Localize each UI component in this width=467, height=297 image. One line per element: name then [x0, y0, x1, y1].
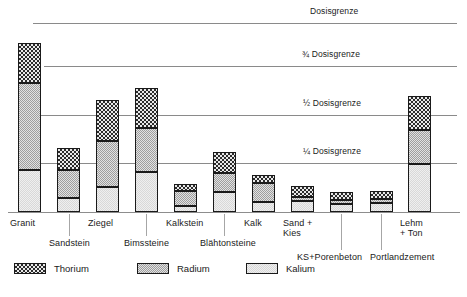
bar-blaehtonsteine[interactable] — [213, 152, 236, 212]
bar-segment-kalium — [370, 203, 393, 212]
gridline-0 — [33, 23, 457, 24]
label-leader-portlandzement — [381, 214, 382, 250]
bar-kalkstein[interactable] — [174, 184, 197, 212]
bar-segment-thorium — [213, 152, 236, 173]
bar-segment-thorium — [370, 191, 393, 199]
bar-segment-radium — [18, 83, 41, 170]
bar-segment-thorium — [96, 100, 119, 141]
bar-segment-thorium — [291, 186, 314, 197]
bar-segment-radium — [408, 130, 431, 164]
bar-segment-thorium — [330, 192, 353, 200]
category-label-kalk: Kalk — [244, 218, 262, 228]
bar-segment-thorium — [408, 96, 431, 130]
bar-segment-radium — [96, 141, 119, 187]
category-label-sandstein: Sandstein — [49, 238, 90, 248]
bar-segment-kalium — [213, 192, 236, 212]
bar-segment-thorium — [135, 88, 158, 128]
legend-swatch-kalium — [246, 263, 278, 274]
bar-segment-radium — [252, 183, 275, 202]
bar-segment-kalium — [96, 187, 119, 212]
stacked-bar-chart: Dosisgrenze¾ Dosisgrenze½ Dosisgrenze¼ D… — [0, 0, 467, 297]
category-label-blaehtonsteine: Blähtonsteine — [200, 238, 256, 248]
bar-segment-kalium — [252, 202, 275, 212]
bar-segment-thorium — [252, 175, 275, 183]
bar-kalk[interactable] — [252, 175, 275, 212]
label-leader-bimssteine — [146, 214, 147, 236]
category-label-sand-kies: Sand + Kies — [283, 218, 312, 238]
gridline-label-2: ½ Dosisgrenze — [303, 98, 361, 108]
category-label-ks-porenbeton: KS+Porenbeton — [297, 252, 362, 262]
bar-segment-kalium — [18, 170, 41, 212]
category-label-granit: Granit — [10, 218, 35, 228]
bar-ziegel[interactable] — [96, 100, 119, 212]
bar-segment-kalium — [135, 172, 158, 212]
legend-swatch-thorium — [14, 263, 46, 274]
legend-label-thorium: Thorium — [54, 263, 89, 275]
bar-segment-kalium — [57, 198, 80, 212]
bar-segment-kalium — [291, 201, 314, 212]
bar-bimssteine[interactable] — [135, 88, 158, 212]
bar-segment-radium — [57, 170, 80, 198]
bar-granit[interactable] — [18, 43, 41, 212]
bar-lehm-ton[interactable] — [408, 96, 431, 212]
label-leader-ks-porenbeton — [341, 214, 342, 250]
bar-sandstein[interactable] — [57, 148, 80, 212]
bar-segment-radium — [213, 173, 236, 192]
gridline-label-3: ¼ Dosisgrenze — [303, 146, 361, 156]
bar-segment-radium — [135, 128, 158, 172]
baseline-axis — [8, 212, 460, 213]
bar-segment-radium — [174, 191, 197, 206]
bar-segment-thorium — [57, 148, 80, 170]
gridline-1 — [44, 66, 457, 67]
category-label-bimssteine: Bimssteine — [124, 238, 169, 248]
legend-swatch-radium — [137, 263, 169, 274]
label-leader-sandstein — [69, 214, 70, 236]
category-label-portlandzement: Portlandzement — [370, 252, 434, 262]
category-label-lehm-ton: Lehm + Ton — [400, 218, 423, 238]
category-label-kalkstein: Kalkstein — [166, 218, 203, 228]
bar-segment-kalium — [330, 204, 353, 212]
bar-segment-thorium — [174, 184, 197, 191]
bar-segment-thorium — [18, 43, 41, 83]
gridline-label-1: ¾ Dosisgrenze — [302, 49, 360, 59]
bar-sand-kies[interactable] — [291, 186, 314, 212]
gridline-label-0: Dosisgrenze — [310, 6, 358, 16]
bar-segment-kalium — [408, 164, 431, 212]
bar-ks-porenbeton[interactable] — [330, 192, 353, 212]
legend-label-kalium: Kalium — [286, 263, 315, 275]
bar-portlandzement[interactable] — [370, 191, 393, 212]
category-label-ziegel: Ziegel — [88, 218, 113, 228]
bar-segment-kalium — [174, 206, 197, 212]
legend-label-radium: Radium — [177, 263, 210, 275]
label-leader-blaehtonsteine — [224, 214, 225, 236]
